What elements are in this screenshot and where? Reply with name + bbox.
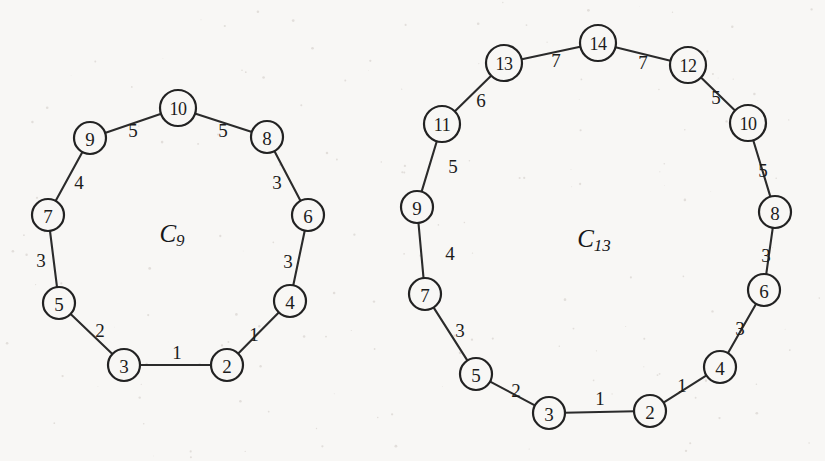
graph-node-10[interactable]: 10 — [730, 105, 766, 141]
paper-speck — [684, 129, 686, 131]
paper-speck — [143, 423, 145, 425]
paper-speck — [755, 412, 758, 415]
graph-node-8[interactable]: 8 — [759, 196, 791, 228]
paper-speck — [775, 177, 777, 179]
edge-weight-label: 3 — [761, 245, 771, 266]
edge-weight-label: 2 — [511, 380, 521, 401]
node-label: 9 — [85, 129, 95, 150]
paper-speck — [659, 373, 661, 375]
paper-speck — [325, 336, 327, 338]
graph-node-4[interactable]: 4 — [274, 285, 306, 317]
paper-speck — [321, 445, 323, 447]
graph-node-9[interactable]: 9 — [401, 191, 433, 223]
graph-node-10[interactable]: 10 — [160, 90, 196, 126]
paper-speck — [368, 70, 369, 71]
graph-node-6[interactable]: 6 — [748, 274, 780, 306]
paper-speck — [6, 342, 9, 345]
paper-speck — [153, 456, 154, 457]
paper-speck — [190, 456, 192, 458]
paper-speck — [334, 393, 335, 394]
paper-speck — [311, 47, 314, 50]
graph-node-7[interactable]: 7 — [409, 278, 441, 310]
node-label: 7 — [43, 206, 53, 227]
edge-weight-label: 5 — [218, 120, 228, 141]
paper-speck — [377, 417, 379, 419]
node-label: 4 — [715, 358, 725, 379]
edge-weight-label: 4 — [74, 172, 84, 193]
paper-speck — [224, 25, 226, 27]
paper-speck — [657, 374, 659, 376]
graph-node-3[interactable]: 3 — [108, 349, 140, 381]
paper-speck — [753, 93, 756, 96]
paper-speck — [492, 338, 494, 340]
paper-speck — [733, 78, 734, 79]
paper-speck — [245, 451, 246, 452]
edge-weight-label: 3 — [735, 318, 745, 339]
paper-speck — [138, 396, 140, 398]
paper-speck — [547, 42, 548, 43]
paper-speck — [147, 314, 149, 316]
paper-speck — [684, 199, 687, 202]
graph-node-5[interactable]: 5 — [460, 358, 492, 390]
graph-node-12[interactable]: 12 — [670, 47, 706, 83]
paper-speck — [659, 171, 660, 172]
paper-speck — [53, 422, 55, 424]
paper-speck — [596, 350, 597, 351]
paper-speck — [469, 160, 471, 162]
paper-speck — [625, 326, 626, 327]
graph-node-13[interactable]: 13 — [486, 45, 522, 81]
paper-speck — [243, 251, 244, 252]
paper-speck — [772, 247, 773, 248]
graph-node-14[interactable]: 14 — [580, 25, 616, 61]
paper-speck — [241, 69, 243, 71]
graph-node-4[interactable]: 4 — [704, 351, 736, 383]
paper-speck — [292, 19, 295, 22]
paper-speck — [201, 19, 202, 20]
paper-speck — [502, 2, 503, 3]
paper-speck — [46, 106, 49, 109]
figure-canvas: 1234553312357910864C91234567755331235791… — [0, 0, 825, 461]
paper-speck — [71, 75, 72, 76]
graph-node-9[interactable]: 9 — [74, 122, 106, 154]
paper-speck — [718, 417, 720, 419]
paper-speck — [464, 222, 466, 224]
edge-weight-label: 7 — [551, 50, 561, 71]
paper-speck — [705, 380, 707, 382]
node-label: 14 — [589, 34, 607, 54]
paper-speck — [442, 386, 443, 387]
paper-speck — [131, 86, 133, 88]
paper-speck — [478, 63, 479, 64]
graph-node-5[interactable]: 5 — [43, 287, 75, 319]
paper-speck — [710, 191, 711, 192]
paper-speck — [695, 397, 697, 399]
edge-weight-label: 5 — [711, 87, 721, 108]
paper-speck — [789, 349, 791, 351]
paper-speck — [587, 9, 590, 12]
graph-node-8[interactable]: 8 — [251, 121, 283, 153]
paper-speck — [12, 250, 15, 253]
paper-speck — [300, 104, 302, 106]
paper-speck — [404, 165, 406, 167]
paper-speck — [758, 100, 759, 101]
graph-node-11[interactable]: 11 — [424, 106, 460, 142]
paper-speck — [579, 99, 580, 100]
paper-speck — [664, 185, 665, 186]
graph-node-7[interactable]: 7 — [32, 199, 64, 231]
paper-speck — [526, 24, 528, 26]
graph-node-2[interactable]: 2 — [634, 395, 666, 427]
paper-speck — [60, 282, 62, 284]
graph-node-6[interactable]: 6 — [292, 199, 324, 231]
graph-edge-2-3 — [564, 411, 635, 412]
graph-node-3[interactable]: 3 — [533, 397, 565, 429]
paper-speck — [685, 450, 687, 452]
edge-weight-label: 1 — [595, 388, 605, 409]
paper-speck — [731, 26, 733, 28]
paper-speck — [559, 346, 561, 348]
graph-title-subscript: 9 — [176, 231, 185, 250]
node-label: 8 — [770, 203, 780, 224]
graph-node-2[interactable]: 2 — [211, 349, 243, 381]
paper-speck — [401, 89, 402, 90]
paper-speck — [31, 121, 33, 123]
paper-speck — [580, 129, 582, 131]
paper-speck — [785, 329, 786, 330]
